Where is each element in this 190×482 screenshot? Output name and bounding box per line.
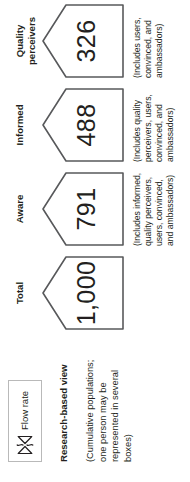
funnel-stage-list: Total 1,000 Aware 791 (Includes inform <box>0 0 190 332</box>
stage-total: Total 1,000 <box>0 254 190 332</box>
intro-block: Research-based view (Cumulative populati… <box>58 342 134 462</box>
stage-informed: Informed 488 (Includes quality perceiver… <box>0 86 190 164</box>
stage-note: (Includes quality perceivers, users, con… <box>132 88 176 162</box>
stage-value: 326 <box>40 2 126 80</box>
stage-label: Quality perceivers <box>14 2 37 80</box>
stage-quality-perceivers: Quality perceivers 326 (Includes users, … <box>0 2 190 80</box>
page-title: Research-based view <box>58 342 70 462</box>
stage-note: (Includes informed, quality perceivers, … <box>132 172 176 246</box>
legend-flow-rate: Flow rate <box>8 380 42 462</box>
legend-label: Flow rate <box>20 391 30 430</box>
stage-value: 1,000 <box>40 254 126 332</box>
stage-label: Informed <box>14 86 26 164</box>
stage-value: 791 <box>40 170 126 248</box>
stage-aware: Aware 791 (Includes informed, quality pe… <box>0 170 190 248</box>
flow-rate-valve-icon <box>15 434 35 456</box>
diagram-canvas: Flow rate Research-based view (Cumulativ… <box>0 0 190 482</box>
diagram-rotation-wrapper: Flow rate Research-based view (Cumulativ… <box>0 0 190 482</box>
stage-label: Total <box>14 254 26 332</box>
stage-note: (Includes users, convinced, and ambassad… <box>132 4 165 78</box>
intro-note: (Cumulative populations; one person may … <box>84 342 134 462</box>
stage-value: 488 <box>40 86 126 164</box>
stage-label: Aware <box>14 170 26 248</box>
